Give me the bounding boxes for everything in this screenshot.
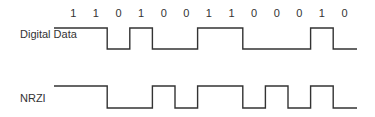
bit-label: 0: [296, 7, 302, 19]
bit-label: 1: [138, 7, 144, 19]
bit-label: 1: [206, 7, 212, 19]
digital-data-row: Digital Data: [20, 28, 357, 49]
bit-label: 0: [115, 7, 121, 19]
nrzi-encoding-diagram: 1101001100010 Digital Data NRZI: [0, 0, 375, 117]
digital-data-waveform: [54, 28, 357, 49]
bit-label: 1: [228, 7, 234, 19]
nrzi-label: NRZI: [20, 92, 46, 104]
bit-label: 1: [319, 7, 325, 19]
bit-label: 0: [161, 7, 167, 19]
bit-label: 0: [341, 7, 347, 19]
bit-label: 0: [251, 7, 257, 19]
bit-label: 1: [70, 7, 76, 19]
nrzi-row: NRZI: [20, 86, 357, 108]
bit-sequence-labels: 1101001100010: [70, 7, 347, 19]
nrzi-waveform: [54, 86, 357, 108]
digital-data-label: Digital Data: [20, 28, 78, 40]
bit-label: 0: [183, 7, 189, 19]
bit-label: 1: [93, 7, 99, 19]
bit-label: 0: [274, 7, 280, 19]
